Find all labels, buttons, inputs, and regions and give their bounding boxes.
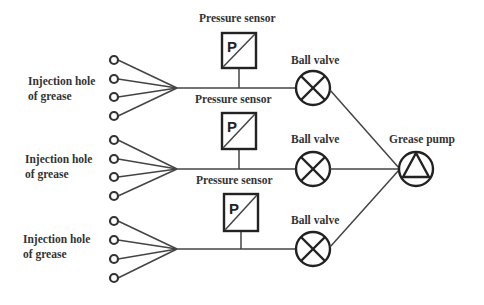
grease-injection-diagram: Injection hole of grease Pressure sensor… (0, 0, 484, 305)
injection-label-line1: Injection hole (25, 153, 92, 166)
injection-holes (110, 217, 177, 282)
pump-triangle-icon (399, 152, 433, 186)
injection-hole-circle-icon (110, 155, 118, 163)
injection-hole-circle-icon (110, 136, 118, 144)
injection-label-line1: Injection hole (23, 233, 90, 246)
sensor-label: Pressure sensor (195, 93, 272, 105)
branch-3: Injection hole of grease Pressure sensor… (23, 170, 399, 282)
pressure-sensor-box-icon: P (224, 194, 258, 249)
injection-hole-circle-icon (110, 217, 118, 225)
injection-holes (110, 56, 177, 120)
injection-hole-circle-icon (110, 75, 118, 83)
injection-hole-circle-icon (110, 173, 118, 181)
pipe-to-pump (330, 170, 399, 247)
grease-pump: Grease pump (389, 133, 455, 186)
branch-1: Injection hole of grease Pressure sensor… (28, 12, 399, 168)
sensor-label: Pressure sensor (196, 174, 273, 186)
pump-label: Grease pump (389, 133, 455, 146)
valve-label: Ball valve (291, 54, 339, 66)
injection-label-line2: of grease (23, 248, 67, 261)
injection-label-line2: of grease (28, 90, 72, 103)
injection-label-line1: Injection hole (28, 75, 95, 88)
valve-label: Ball valve (291, 133, 339, 145)
injection-hole-circle-icon (110, 112, 118, 120)
pressure-sensor-box-icon: P (222, 113, 256, 169)
injection-label-line2: of grease (25, 168, 69, 181)
injection-hole-circle-icon (110, 192, 118, 200)
valve-label: Ball valve (291, 214, 339, 226)
injection-holes (110, 136, 177, 200)
ball-valve-cross-icon (296, 232, 330, 266)
injection-hole-circle-icon (110, 255, 118, 263)
sensor-symbol: P (227, 38, 237, 55)
pressure-sensor-box-icon: P (222, 33, 256, 88)
sensor-symbol: P (229, 200, 239, 217)
injection-hole-circle-icon (110, 56, 118, 64)
ball-valve-cross-icon (296, 152, 330, 186)
injection-hole-circle-icon (110, 236, 118, 244)
injection-hole-circle-icon (110, 93, 118, 101)
sensor-symbol: P (227, 118, 237, 135)
sensor-label: Pressure sensor (199, 12, 276, 24)
pipe-to-pump (330, 90, 399, 168)
ball-valve-cross-icon (296, 71, 330, 105)
injection-hole-circle-icon (110, 274, 118, 282)
